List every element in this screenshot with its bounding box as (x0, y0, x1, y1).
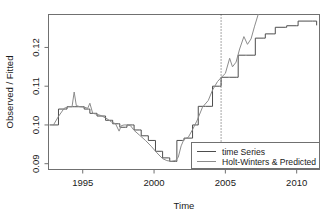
x-tick-label: 2005 (215, 177, 236, 188)
legend-label: Holt-Winters & Predicted (222, 157, 316, 167)
x-axis-title: Time (174, 200, 195, 211)
y-tick-label: 0.09 (30, 154, 41, 173)
x-tick-label: 2010 (286, 177, 307, 188)
y-axis-title: Observed / Fitted (4, 56, 15, 129)
y-tick-label: 0.12 (30, 38, 41, 57)
y-tick-label: 0.11 (30, 77, 41, 95)
x-tick-label: 2000 (143, 177, 164, 188)
y-tick-label: 0.10 (30, 116, 41, 135)
chart-container: 0.090.100.110.12 1995200020052010 Observ… (0, 0, 326, 217)
chart-legend: time SeriesHolt-Winters & Predicted (192, 143, 320, 169)
legend-label: time Series (222, 147, 265, 157)
x-tick-label: 1995 (72, 177, 93, 188)
line-chart: 0.090.100.110.12 1995200020052010 Observ… (0, 0, 326, 217)
